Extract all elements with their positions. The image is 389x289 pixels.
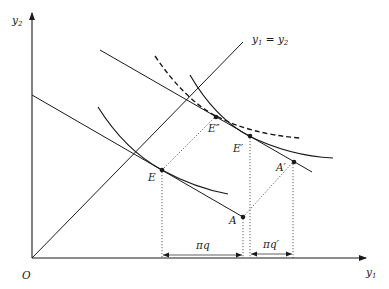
label-E-double-prime: E″ xyxy=(207,122,220,134)
point-E xyxy=(160,168,165,173)
diagram-canvas: y2 y1 O y1 = y2 E A E″ E′ A′ πq πq′ xyxy=(0,0,389,289)
diagonal-line xyxy=(32,42,243,258)
label-pi-q: πq xyxy=(195,239,210,251)
diagonal-label: y1 = y2 xyxy=(251,33,289,47)
origin-label: O xyxy=(22,269,31,281)
label-pi-q-prime: πq′ xyxy=(262,238,280,250)
point-E-prime xyxy=(248,134,253,139)
y-axis-label: y2 xyxy=(11,14,23,28)
label-A: A xyxy=(228,214,237,226)
point-E-double-prime xyxy=(214,115,219,120)
x-axis-label: y1 xyxy=(365,266,376,280)
lower-indifference-curve xyxy=(98,107,228,194)
dashed-indifference-curve xyxy=(155,56,300,138)
upper-budget-line xyxy=(100,50,312,172)
label-E: E xyxy=(147,171,156,183)
label-A-prime: A′ xyxy=(275,161,287,173)
label-E-prime: E′ xyxy=(232,142,244,154)
upper-indifference-curve xyxy=(190,75,333,158)
point-A-prime xyxy=(292,160,297,165)
point-A xyxy=(241,215,246,220)
axes xyxy=(32,13,366,258)
